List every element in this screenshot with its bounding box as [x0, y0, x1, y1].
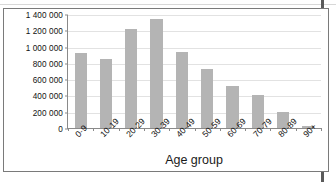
- bar: [125, 29, 137, 128]
- x-tick-mark: [220, 128, 221, 131]
- y-tick-label: 200 000: [33, 108, 68, 117]
- x-tick-mark: [296, 128, 297, 131]
- x-tick-mark: [270, 128, 271, 131]
- y-tick-label: 800 000: [33, 59, 68, 68]
- bar-slot: [119, 15, 144, 128]
- y-tick-label: 1 200 000: [26, 27, 68, 36]
- bar-slot: [194, 15, 219, 128]
- x-tick-mark: [169, 128, 170, 131]
- x-tick-mark: [195, 128, 196, 131]
- x-tick-mark: [68, 128, 69, 131]
- bar-slot: [144, 15, 169, 128]
- y-tick-label: 1 000 000: [26, 43, 68, 52]
- bar-slot: [93, 15, 118, 128]
- y-tick-label: 1 400 000: [26, 11, 68, 20]
- bar-series: [68, 15, 321, 128]
- x-axis-title: Age group: [67, 153, 321, 167]
- x-tick-mark: [93, 128, 94, 131]
- bar: [150, 19, 162, 128]
- bar-slot: [296, 15, 321, 128]
- scan-crop-mark-bottom: [321, 172, 324, 182]
- bar-slot: [169, 15, 194, 128]
- bar-slot: [220, 15, 245, 128]
- bar: [176, 52, 188, 128]
- bar: [75, 53, 87, 128]
- bar-slot: [270, 15, 295, 128]
- x-tick-mark: [144, 128, 145, 131]
- y-tick-label: 600 000: [33, 76, 68, 85]
- bar: [100, 59, 112, 128]
- bar-slot: [245, 15, 270, 128]
- bar-slot: [68, 15, 93, 128]
- plot-area: 0200 000400 000600 000800 0001 000 0001 …: [67, 15, 321, 129]
- x-tick-mark: [321, 128, 322, 131]
- x-tick-mark: [119, 128, 120, 131]
- x-tick-mark: [245, 128, 246, 131]
- page-top-sliver: [0, 0, 336, 5]
- y-tick-label: 400 000: [33, 92, 68, 101]
- bar-chart-figure: Number of people 0200 000400 000600 0008…: [3, 8, 329, 172]
